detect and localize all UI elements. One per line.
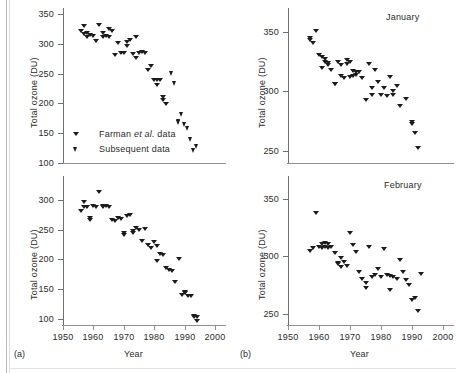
data-point [325, 63, 331, 67]
panel-b-february-ytick [283, 314, 288, 315]
data-point [394, 84, 400, 88]
data-point [363, 286, 369, 290]
panel-a-bottom-xtick [93, 326, 94, 330]
page-rule [6, 0, 7, 373]
panel-a-bottom-ytick-label: 200 [28, 255, 54, 264]
panel-b-january-y-axis [288, 8, 289, 163]
data-point [81, 24, 87, 28]
data-point [359, 76, 365, 80]
triangle-down-bold-icon [73, 147, 77, 152]
data-point [412, 296, 418, 300]
panel-b-january-ytick-label: 250 [253, 147, 279, 156]
panel-a-bottom-ytick [58, 259, 63, 260]
panel-a-bottom-ytick-label: 150 [28, 285, 54, 294]
panel-b-february-xtick [443, 326, 444, 330]
data-point [372, 273, 378, 277]
panel-a-top-ylabel: Total ozone (DU) [30, 57, 39, 128]
panel-a-bottom-ytick-label: 100 [28, 315, 54, 324]
data-point [313, 211, 319, 215]
data-point [154, 244, 160, 248]
data-point [176, 257, 182, 261]
panel-a-bottom-x-axis [62, 325, 226, 326]
panel-a-top-ytick [58, 44, 63, 45]
panel-b-february-y-axis [288, 176, 289, 325]
data-point [115, 41, 121, 45]
data-point [412, 131, 418, 135]
panel-b-january-x-axis [287, 163, 454, 164]
panel-a-bottom-ytick [58, 230, 63, 231]
data-point [347, 60, 353, 64]
data-point [400, 270, 406, 274]
data-point [363, 98, 369, 102]
panel-a-bottom-xtick-label: 1990 [169, 333, 201, 342]
data-point [375, 267, 381, 271]
data-point [415, 309, 421, 313]
panel-a-xlabel: Year [124, 350, 143, 359]
data-point [381, 247, 387, 251]
data-point [145, 68, 151, 72]
panel-b-february-xtick-label: 1990 [396, 333, 428, 342]
data-point [347, 231, 353, 235]
page-rule-secondary [9, 0, 10, 373]
data-point [194, 315, 200, 319]
data-point [369, 86, 375, 90]
panel-a-bottom-xtick [215, 326, 216, 330]
data-point [310, 246, 316, 250]
data-point [106, 35, 112, 39]
data-point [160, 253, 166, 257]
panel-a-bottom-ytick-label: 300 [28, 196, 54, 205]
data-point [188, 294, 194, 298]
data-point [409, 122, 415, 126]
data-point [378, 275, 384, 279]
panel-b-xlabel: Year [350, 350, 369, 359]
data-point [179, 112, 183, 117]
panel-b-january-ytick [283, 151, 288, 152]
data-point [87, 218, 93, 222]
data-point [313, 29, 319, 33]
panel-b-february-ylabel: Total ozone (DU) [258, 229, 267, 300]
data-point [328, 68, 334, 72]
panel-a-top-ytick-label: 250 [28, 70, 54, 79]
data-point [133, 35, 139, 39]
panel-b-february-ytick-label: 300 [253, 252, 279, 261]
triangle-down-icon [73, 132, 79, 136]
panel-tag-a: (a) [14, 350, 25, 359]
data-point [124, 44, 130, 48]
data-point [188, 137, 192, 142]
panel-b-january-ytick [283, 91, 288, 92]
panel-a-top-ytick-label: 350 [28, 10, 54, 19]
data-point [90, 34, 96, 38]
data-point [319, 66, 325, 70]
panel-b-february-xtick-label: 1970 [334, 333, 366, 342]
data-point [390, 93, 396, 97]
panel-b-february-ytick-label: 350 [253, 195, 279, 204]
legend-label-subsequent: Subsequent data [99, 144, 170, 155]
data-point [185, 126, 189, 131]
panel-a-top-x-axis [62, 163, 226, 164]
panel-b-january-ytick-label: 350 [253, 28, 279, 37]
panel-a-bottom-xtick [154, 326, 155, 330]
panel-a-top-ytick [58, 103, 63, 104]
data-point [78, 209, 84, 213]
panel-a-top-ytick-label: 100 [28, 159, 54, 168]
data-point [418, 272, 424, 276]
data-point [154, 83, 160, 87]
panel-b-february-xtick [381, 326, 382, 330]
data-point [397, 258, 403, 262]
panel-b-february-xtick-label: 1980 [365, 333, 397, 342]
data-point [341, 76, 347, 80]
panel-b-february-xtick [412, 326, 413, 330]
panel-b-february-xtick [350, 326, 351, 330]
data-point [194, 144, 198, 149]
panel-b-february-ytick [283, 256, 288, 257]
panel-b-february-xtick [288, 326, 289, 330]
data-point [332, 82, 338, 86]
panel-a-top-ytick [58, 133, 63, 134]
panel-a-bottom-xtick [124, 326, 125, 330]
data-point [109, 29, 115, 33]
data-point [332, 251, 338, 255]
data-point [169, 269, 175, 273]
data-point [403, 97, 409, 101]
data-point [375, 80, 381, 84]
panel-a-bottom-y-axis [63, 176, 64, 325]
